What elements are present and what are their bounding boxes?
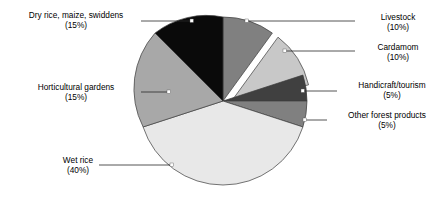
pie-label-other-forest: Other forest products (5%) [330,110,444,131]
pie-label-other-forest-name: Other forest products [330,110,444,120]
pie-label-handicraft-name: Handicraft/tourism [340,80,444,90]
pie-label-dry-rice-name: Dry rice, maize, swiddens [14,10,138,20]
pie-label-horticultural: Horticultural gardens (15%) [14,82,138,103]
pie-label-handicraft-percent: (5%) [340,90,444,100]
pie-label-handicraft: Handicraft/tourism (5%) [340,80,444,101]
pie-label-cardamom-percent: (10%) [358,52,438,62]
pie-label-livestock-percent: (10%) [358,22,438,32]
pie-label-cardamom-name: Cardamom [358,42,438,52]
pie-chart-figure: Dry rice, maize, swiddens (15%) Horticul… [0,0,445,201]
pie-label-dry-rice: Dry rice, maize, swiddens (15%) [14,10,138,31]
leader-dot-other-forest [303,118,306,121]
pie-label-livestock-name: Livestock [358,12,438,22]
pie-label-cardamom: Cardamom (10%) [358,42,438,63]
pie-label-horticultural-percent: (15%) [14,92,138,102]
pie-label-horticultural-name: Horticultural gardens [14,82,138,92]
leader-dot-wet-rice [170,163,173,166]
pie-slices [134,15,309,185]
pie-label-wet-rice-name: Wet rice [36,155,120,165]
leader-dot-livestock [245,19,248,22]
leader-dot-horticultural [167,90,170,93]
pie-label-other-forest-percent: (5%) [330,120,444,130]
pie-label-dry-rice-percent: (15%) [14,20,138,30]
pie-label-wet-rice: Wet rice (40%) [36,155,120,176]
leader-dot-cardamom [283,49,286,52]
pie-label-livestock: Livestock (10%) [358,12,438,33]
leader-dot-dry-rice [190,19,193,22]
pie-label-wet-rice-percent: (40%) [36,165,120,175]
leader-dot-handicraft [301,89,304,92]
